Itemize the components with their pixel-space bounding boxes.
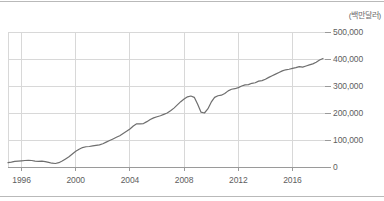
- chart-container: (백만달러) 0100,000200,000300,000400,000500,…: [0, 0, 384, 201]
- y-axis-unit-label: (백만달러): [349, 9, 381, 20]
- x-tick-label: 2016: [283, 175, 302, 185]
- y-tick-label: 200,000: [333, 108, 363, 118]
- y-tick-label: 100,000: [333, 135, 363, 145]
- y-tick-label: 300,000: [333, 81, 363, 91]
- x-tick-label: 2000: [66, 175, 85, 185]
- x-tick-label: 1996: [12, 175, 31, 185]
- y-tick-label: 0: [333, 162, 338, 172]
- y-tick-label: 400,000: [333, 54, 363, 64]
- x-tick-label: 2004: [121, 175, 140, 185]
- data-series-line: [8, 58, 323, 163]
- x-tick-label: 2008: [175, 175, 194, 185]
- x-tick-label: 2012: [229, 175, 248, 185]
- line-chart-plot: [0, 0, 384, 201]
- y-tick-label: 500,000: [333, 27, 363, 37]
